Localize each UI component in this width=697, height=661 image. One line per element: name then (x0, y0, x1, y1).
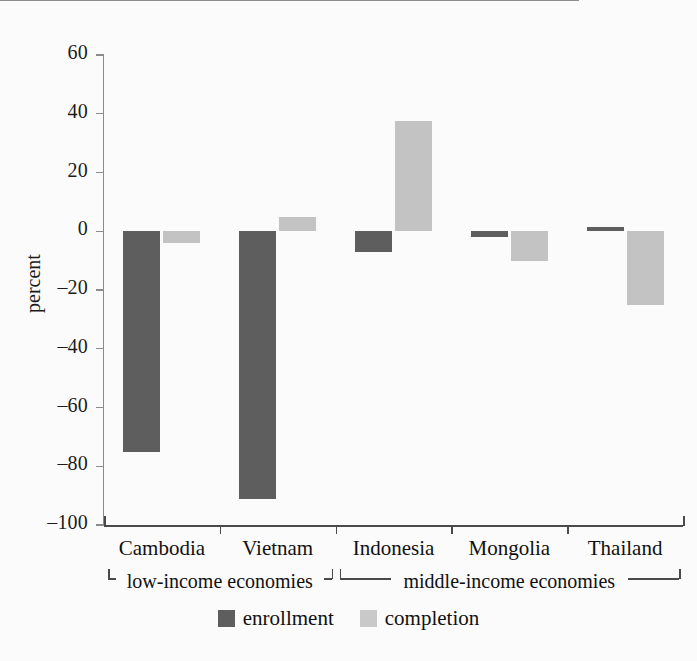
bar-completion-thailand (627, 231, 664, 304)
legend-label: completion (385, 606, 479, 631)
y-tick-label: 60 (28, 41, 88, 64)
y-tick-mark (96, 407, 104, 408)
group-bracket-cap-right (679, 569, 681, 579)
group-bracket-cap-right (332, 569, 334, 579)
category-axis-tick (451, 525, 453, 534)
y-tick-mark (96, 54, 104, 55)
y-tick-mark (96, 348, 104, 349)
y-tick-mark (96, 289, 104, 290)
legend-swatch-icon-completion (360, 610, 377, 627)
legend-item-completion: completion (360, 606, 479, 631)
bar-enrollment-indonesia (355, 231, 392, 252)
category-label-thailand: Thailand (550, 536, 697, 561)
y-axis-title: percent (22, 229, 45, 339)
bar-enrollment-thailand (587, 227, 624, 231)
group-bracket-line-right (324, 578, 332, 580)
chart-legend: enrollmentcompletion (0, 606, 697, 631)
group-bracket-cap-left (340, 569, 342, 579)
y-tick-label: –100 (28, 511, 88, 534)
y-tick-mark (96, 231, 104, 232)
y-tick-label: –60 (28, 394, 88, 417)
bar-completion-indonesia (395, 121, 432, 231)
plot-area (104, 55, 683, 525)
group-bracket-cap-left (108, 569, 110, 579)
y-tick-mark (96, 466, 104, 467)
category-axis-tick (336, 525, 338, 534)
category-axis-line (104, 525, 683, 527)
category-axis-endcap (683, 516, 685, 526)
bar-enrollment-cambodia (123, 231, 160, 451)
group-label-middle-income: middle-income economies (399, 570, 620, 593)
bar-completion-mongolia (511, 231, 548, 260)
y-tick-label: 40 (28, 100, 88, 123)
y-tick-mark (96, 524, 104, 525)
group-bracket-line-left (340, 578, 391, 580)
bar-completion-vietnam (279, 217, 316, 232)
y-tick-mark (96, 172, 104, 173)
legend-swatch-icon-enrollment (218, 610, 235, 627)
y-tick-label: 20 (28, 159, 88, 182)
group-bracket-line-right (628, 578, 679, 580)
bar-completion-cambodia (163, 231, 200, 243)
y-tick-label: –80 (28, 452, 88, 475)
bar-enrollment-vietnam (239, 231, 276, 498)
legend-label: enrollment (243, 606, 334, 631)
category-axis-tick (220, 525, 222, 534)
legend-item-enrollment: enrollment (218, 606, 334, 631)
bar-enrollment-mongolia (471, 231, 508, 237)
zero-baseline (0, 0, 579, 1)
group-label-low-income: low-income economies (124, 570, 316, 593)
category-axis-endcap (104, 516, 106, 526)
y-tick-mark (96, 113, 104, 114)
category-axis-tick (567, 525, 569, 534)
chart-figure: 6040200–20–40–60–80–100 percent Cambodia… (0, 0, 697, 661)
